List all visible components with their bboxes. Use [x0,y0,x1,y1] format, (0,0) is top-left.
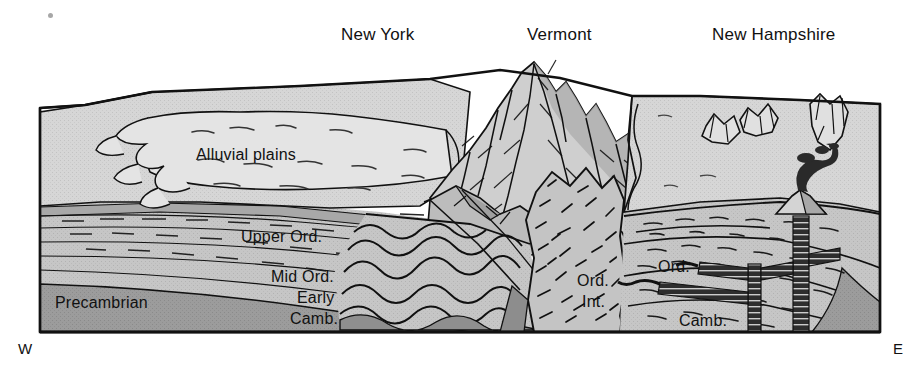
unit-label-precambrian: Precambrian [55,294,148,312]
figure-canvas: New York Vermont New Hampshire Alluvial … [0,0,916,379]
state-label-new-york: New York [341,25,414,45]
scan-speck [48,13,53,18]
unit-label-alluvial-plains: Alluvial plains [196,146,296,164]
unit-label-early: Early [297,289,334,307]
unit-label-upper-ordovician: Upper Ord. [241,228,322,246]
unit-label-cambrian: Camb. [290,310,338,328]
block-diagram-svg [0,0,916,379]
surface-new-hampshire [624,94,880,212]
unit-label-intrusion-ord: Ord. [577,272,609,290]
state-label-vermont: Vermont [527,25,592,45]
unit-label-east-ordovician: Ord. [658,258,690,276]
compass-east-label: E [893,340,903,357]
compass-west-label: W [18,340,32,357]
unit-label-intrusion-int: Int. [582,293,605,311]
unit-label-east-cambrian: Camb. [679,312,727,330]
unit-label-mid-ordovician: Mid Ord. [271,268,334,286]
state-label-new-hampshire: New Hampshire [712,25,836,45]
